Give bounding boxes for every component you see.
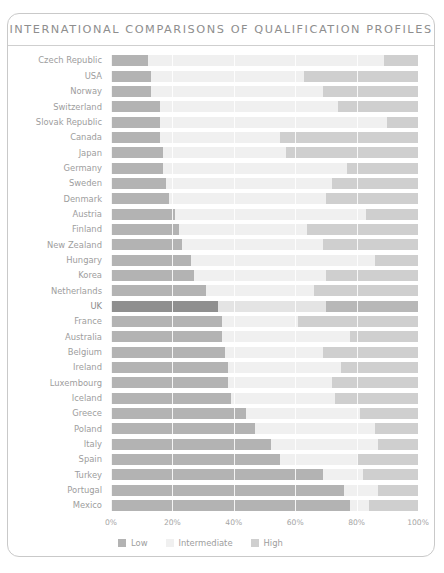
x-tick-label: 100% (407, 518, 429, 527)
table-row: Germany (8, 160, 434, 175)
bar-segment-low (111, 270, 194, 281)
category-label: Czech Republic (8, 56, 111, 64)
stacked-bar (111, 347, 418, 358)
plot-area: Czech RepublicUSANorwaySwitzerlandSlovak… (8, 46, 434, 558)
table-row: Greece (8, 406, 434, 421)
table-row: Finland (8, 222, 434, 237)
table-row: Luxembourg (8, 375, 434, 390)
table-row: Hungary (8, 252, 434, 267)
stacked-bar (111, 55, 418, 66)
bar-segment-high (378, 439, 418, 450)
bar-segment-high (378, 485, 418, 496)
bar-segment-intermediate (255, 423, 375, 434)
category-label: Turkey (8, 471, 111, 479)
bar-segment-intermediate (194, 270, 326, 281)
bar-segment-intermediate (344, 485, 378, 496)
bar-segment-intermediate (228, 377, 332, 388)
stacked-bar (111, 362, 418, 373)
bar-segment-intermediate (163, 147, 286, 158)
bar-segment-intermediate (228, 362, 342, 373)
table-row: Italy (8, 437, 434, 452)
category-label: Slovak Republic (8, 118, 111, 126)
bar-segment-intermediate (350, 500, 368, 511)
bar-segment-high (341, 362, 418, 373)
category-label: Norway (8, 87, 111, 95)
stacked-bar (111, 316, 418, 327)
x-tick-label: 0% (105, 518, 117, 527)
bar-segment-high (357, 454, 418, 465)
category-label: USA (8, 72, 111, 80)
bar-rows: Czech RepublicUSANorwaySwitzerlandSlovak… (8, 53, 434, 513)
stacked-bar (111, 270, 418, 281)
bar-segment-low (111, 255, 191, 266)
stacked-bar (111, 469, 418, 480)
x-tick-label: 80% (348, 518, 365, 527)
bar-segment-intermediate (280, 454, 357, 465)
category-label: New Zealand (8, 241, 111, 249)
x-axis: 0%20%40%60%80%100% (111, 518, 418, 532)
stacked-bar (111, 163, 418, 174)
bar-segment-low (111, 408, 246, 419)
bar-segment-low (111, 55, 148, 66)
bar-segment-intermediate (163, 163, 347, 174)
bar-segment-low (111, 362, 228, 373)
bar-segment-low (111, 500, 350, 511)
legend-item-low[interactable]: Low (118, 538, 157, 548)
bar-segment-intermediate (160, 132, 280, 143)
x-tick-label: 20% (164, 518, 181, 527)
stacked-bar (111, 454, 418, 465)
bar-segment-low (111, 439, 271, 450)
bar-segment-low (111, 71, 151, 82)
stacked-bar (111, 147, 418, 158)
stacked-bar (111, 301, 418, 312)
table-row: Japan (8, 145, 434, 160)
bar-segment-low (111, 423, 255, 434)
bar-segment-low (111, 454, 280, 465)
bar-segment-high (307, 224, 418, 235)
category-label: Denmark (8, 195, 111, 203)
bar-segment-low (111, 147, 163, 158)
stacked-bar (111, 132, 418, 143)
table-row: Spain (8, 452, 434, 467)
stacked-bar (111, 224, 418, 235)
stacked-bar (111, 393, 418, 404)
bar-segment-intermediate (160, 101, 338, 112)
category-label: Germany (8, 164, 111, 172)
bar-segment-high (286, 147, 418, 158)
table-row: Norway (8, 84, 434, 99)
category-label: Spain (8, 455, 111, 463)
bar-segment-high (360, 408, 418, 419)
legend-swatch-icon (118, 539, 126, 547)
bar-segment-high (314, 285, 418, 296)
bar-segment-intermediate (160, 117, 387, 128)
stacked-bar (111, 285, 418, 296)
category-label: Austria (8, 210, 111, 218)
bar-segment-high (326, 301, 418, 312)
bar-segment-high (347, 163, 418, 174)
bar-segment-high (304, 71, 418, 82)
bar-segment-high (323, 86, 418, 97)
bar-segment-high (375, 255, 418, 266)
stacked-bar (111, 500, 418, 511)
legend-swatch-icon (251, 539, 259, 547)
legend-item-intermediate[interactable]: Intermediate (166, 538, 242, 548)
table-row: Austria (8, 206, 434, 221)
bar-segment-high (323, 239, 418, 250)
legend-label: Low (131, 538, 157, 548)
table-row: Switzerland (8, 99, 434, 114)
category-label: Sweden (8, 179, 111, 187)
table-row: Slovak Republic (8, 114, 434, 129)
legend-item-high[interactable]: High (251, 538, 292, 548)
table-row: New Zealand (8, 237, 434, 252)
bar-segment-high (369, 500, 418, 511)
table-row: USA (8, 68, 434, 83)
bar-segment-low (111, 86, 151, 97)
stacked-bar (111, 239, 418, 250)
table-row: Poland (8, 421, 434, 436)
bar-segment-intermediate (246, 408, 360, 419)
legend-label: Intermediate (179, 538, 242, 548)
bar-segment-intermediate (148, 55, 384, 66)
category-label: Japan (8, 149, 111, 157)
legend-label: High (264, 538, 292, 548)
table-row: Iceland (8, 391, 434, 406)
